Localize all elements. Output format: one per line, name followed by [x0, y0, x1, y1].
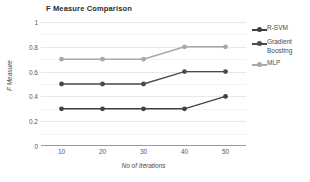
data-point-marker — [100, 82, 105, 87]
legend-label: MLP — [267, 59, 280, 68]
series-layer — [41, 22, 246, 146]
x-axis-tick-label: 40 — [181, 148, 188, 155]
data-point-marker — [100, 106, 105, 111]
legend-entry[interactable]: MLP — [252, 59, 310, 69]
x-axis-tick-label: 50 — [222, 148, 229, 155]
y-axis-tick-label: 1 — [34, 19, 38, 26]
y-axis-tick-label: 0 — [34, 143, 38, 150]
data-point-marker — [141, 82, 146, 87]
data-point-marker — [59, 57, 64, 62]
chart-container: F Measure Comparison 00.20.40.60.81 1020… — [0, 0, 310, 182]
data-point-marker — [223, 94, 228, 99]
y-axis-tick-labels: 00.20.40.60.81 — [14, 22, 38, 146]
data-point-marker — [100, 57, 105, 62]
y-axis-tick-label: 0.2 — [29, 118, 38, 125]
x-axis-tick-label: 30 — [140, 148, 147, 155]
chart-title: F Measure Comparison — [46, 4, 132, 13]
data-point-marker — [182, 44, 187, 49]
data-point-marker — [182, 106, 187, 111]
data-point-marker — [182, 69, 187, 74]
data-point-marker — [223, 69, 228, 74]
data-point-marker — [59, 82, 64, 87]
data-point-marker — [141, 106, 146, 111]
legend-marker-icon — [252, 39, 267, 48]
y-axis-tick-label: 0.8 — [29, 43, 38, 50]
legend-label: Gradient Boosting — [267, 38, 309, 55]
chart-legend: R-SVMGradient BoostingMLP — [252, 24, 310, 73]
y-axis-title: F Measure — [6, 46, 13, 106]
x-axis-tick-label: 10 — [58, 148, 65, 155]
x-axis-tick-labels: 1020304050 — [41, 148, 246, 160]
y-axis-tick-label: 0.6 — [29, 68, 38, 75]
legend-entry[interactable]: R-SVM — [252, 24, 310, 34]
data-point-marker — [223, 44, 228, 49]
data-point-marker — [141, 57, 146, 62]
x-axis-tick-label: 20 — [99, 148, 106, 155]
legend-label: R-SVM — [267, 24, 288, 33]
y-axis-tick-label: 0.4 — [29, 93, 38, 100]
legend-marker-icon — [252, 25, 267, 34]
legend-marker-icon — [252, 60, 267, 69]
data-point-marker — [59, 106, 64, 111]
legend-entry[interactable]: Gradient Boosting — [252, 38, 310, 55]
plot-area — [41, 22, 246, 146]
x-axis-title: No of Iterations — [41, 162, 246, 169]
